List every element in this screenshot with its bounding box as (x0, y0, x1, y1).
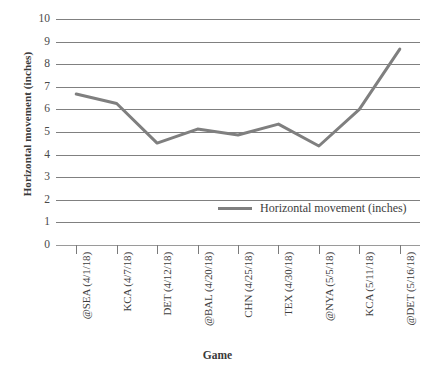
x-tick-label: KCA (5/11/18) (363, 252, 375, 344)
gridline-5 (56, 132, 420, 133)
x-tick-mark (278, 245, 279, 254)
gridline-8 (56, 64, 420, 65)
x-tick-label: @NYA (5/5/18) (323, 252, 335, 344)
y-tick-label-8: 8 (28, 58, 50, 70)
x-tick-label: DET (4/12/18) (161, 252, 173, 344)
y-tick-label-7: 7 (28, 81, 50, 93)
x-tick-mark (157, 245, 158, 254)
chart-title-remnant (0, 0, 435, 10)
gridline-4 (56, 155, 420, 156)
x-tick-mark (117, 245, 118, 254)
x-tick-mark (400, 245, 401, 254)
y-axis-tick-labels: 012345678910 (28, 0, 50, 369)
x-tick-label: @BAL (4/20/18) (202, 252, 214, 344)
y-tick-label-10: 10 (28, 13, 50, 25)
gridline-10 (56, 19, 420, 20)
gridline-6 (56, 109, 420, 110)
y-tick-label-4: 4 (28, 149, 50, 161)
y-tick-label-3: 3 (28, 171, 50, 183)
legend-label: Horizontal movement (inches) (260, 201, 407, 216)
x-tick-label: @SEA (4/1/18) (80, 252, 92, 344)
y-tick-label-6: 6 (28, 103, 50, 115)
legend-line-swatch (218, 207, 252, 210)
x-tick-mark (319, 245, 320, 254)
y-tick-label-2: 2 (28, 194, 50, 206)
gridline-7 (56, 87, 420, 88)
gridline-9 (56, 42, 420, 43)
x-tick-label: CHN (4/25/18) (242, 252, 254, 344)
y-tick-label-9: 9 (28, 36, 50, 48)
y-tick-label-0: 0 (28, 239, 50, 251)
x-tick-mark (359, 245, 360, 254)
y-tick-label-1: 1 (28, 216, 50, 228)
y-tick-label-5: 5 (28, 126, 50, 138)
line-chart: Horizontal movement (inches) 01234567891… (0, 0, 435, 369)
x-tick-label: KCA (4/7/18) (121, 252, 133, 344)
x-tick-label: TEX (4/30/18) (282, 252, 294, 344)
x-tick-mark (76, 245, 77, 254)
x-tick-label: @DET (5/16/18) (404, 252, 416, 344)
chart-legend: Horizontal movement (inches) (218, 201, 407, 216)
x-axis-title: Game (0, 349, 435, 361)
gridline-1 (56, 222, 420, 223)
x-tick-mark (238, 245, 239, 254)
x-axis-tick-labels: @SEA (4/1/18)KCA (4/7/18)DET (4/12/18)@B… (56, 254, 420, 346)
x-tick-mark (198, 245, 199, 254)
gridline-3 (56, 177, 420, 178)
